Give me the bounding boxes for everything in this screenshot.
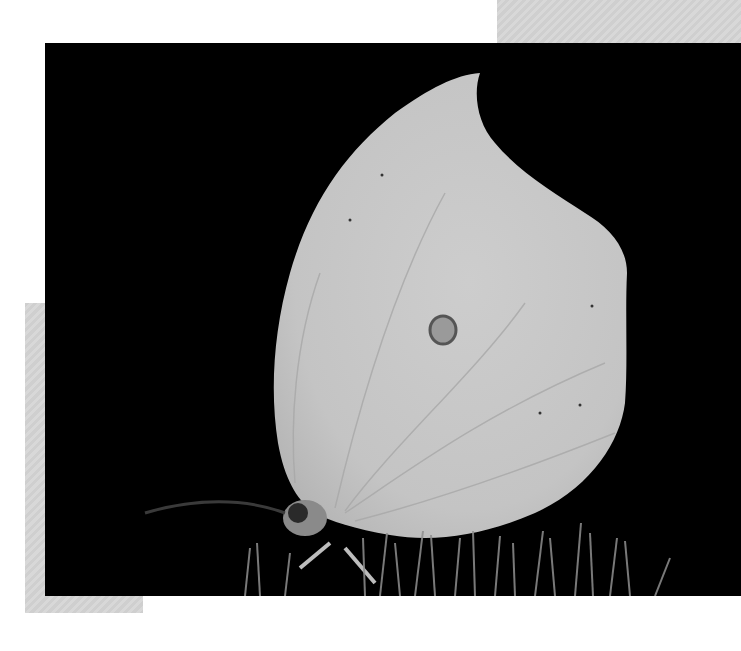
decorative-gray-panel-top [497,0,741,44]
wing-spot [430,316,456,344]
butterfly-photo: Brimstone butterfly with closed wings pe… [45,43,741,596]
butterfly-illustration [45,43,741,596]
page-canvas: Brimstone butterfly with closed wings pe… [0,0,741,651]
